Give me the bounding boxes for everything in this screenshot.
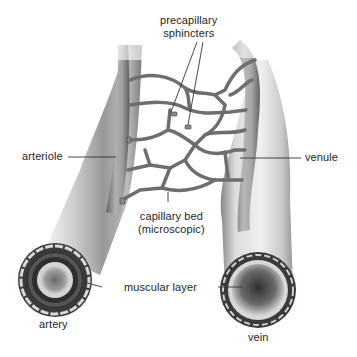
label-capillary-bed-line1: capillary bed <box>138 210 205 223</box>
label-capillary-bed-line2: (microscopic) <box>138 223 205 236</box>
label-arteriole: arteriole <box>22 150 63 163</box>
label-artery: artery <box>39 318 68 331</box>
vessel-illustration <box>0 0 357 357</box>
label-capillary-bed: capillary bed (microscopic) <box>138 210 205 236</box>
label-venule: venule <box>305 151 338 164</box>
label-precapillary-sphincters-line1: precapillary <box>160 14 217 27</box>
label-precapillary-sphincters-line2: sphincters <box>160 27 217 40</box>
label-muscular-layer: muscular layer <box>124 281 197 294</box>
label-precapillary-sphincters: precapillary sphincters <box>160 14 217 40</box>
capillary-network <box>122 60 255 200</box>
label-vein: vein <box>248 331 269 344</box>
circulation-diagram: precapillary sphincters arteriole venule… <box>0 0 357 357</box>
